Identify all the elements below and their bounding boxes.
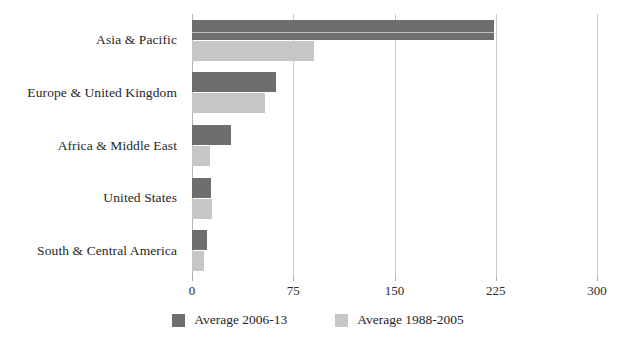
- bar-europe-united-kingdom-series-2: [192, 93, 265, 113]
- xtick-label-300: 300: [587, 283, 607, 299]
- bar-asia-pacific-series-1: [192, 20, 494, 40]
- category-axis-labels: Asia & Pacific Europe & United Kingdom A…: [0, 14, 185, 277]
- legend-item-average-1988-2005[interactable]: Average 1988-2005: [335, 312, 464, 328]
- plot-area: [192, 14, 597, 277]
- category-label-africa-middle-east: Africa & Middle East: [58, 139, 177, 153]
- xtick-label-0: 0: [189, 283, 196, 299]
- gridline-150: [395, 14, 396, 277]
- bar-asia-pacific-series-2: [192, 41, 314, 61]
- legend-label: Average 2006-13: [194, 312, 287, 328]
- category-label-south-central-america: South & Central America: [37, 244, 177, 258]
- legend-item-average-2006-13[interactable]: Average 2006-13: [172, 312, 287, 328]
- xtick-mark-75: [293, 277, 294, 281]
- legend-swatch-icon: [335, 314, 348, 327]
- xtick-label-225: 225: [486, 283, 506, 299]
- bar-united-states-series-1: [192, 178, 211, 198]
- xtick-mark-300: [597, 277, 598, 281]
- value-axis-ticks: 075150225300: [192, 277, 597, 299]
- gridline-300: [597, 14, 598, 277]
- legend-swatch-icon: [172, 314, 185, 327]
- xtick-label-75: 75: [287, 283, 300, 299]
- bar-africa-middle-east-series-2: [192, 146, 210, 166]
- category-label-united-states: United States: [103, 191, 177, 205]
- bar-united-states-series-2: [192, 199, 212, 219]
- legend-label: Average 1988-2005: [357, 312, 464, 328]
- category-label-asia-pacific: Asia & Pacific: [96, 33, 177, 47]
- xtick-label-150: 150: [385, 283, 405, 299]
- bar-chart: Asia & Pacific Europe & United Kingdom A…: [0, 0, 636, 347]
- xtick-mark-150: [395, 277, 396, 281]
- bar-south-central-america-series-1: [192, 230, 207, 250]
- xtick-mark-0: [192, 277, 193, 281]
- chart-legend: Average 2006-13 Average 1988-2005: [0, 312, 636, 328]
- xtick-mark-225: [496, 277, 497, 281]
- bar-south-central-america-series-2: [192, 251, 204, 271]
- bar-europe-united-kingdom-series-1: [192, 72, 276, 92]
- category-label-europe-united-kingdom: Europe & United Kingdom: [27, 86, 177, 100]
- gridline-225: [496, 14, 497, 277]
- bar-africa-middle-east-series-1: [192, 125, 231, 145]
